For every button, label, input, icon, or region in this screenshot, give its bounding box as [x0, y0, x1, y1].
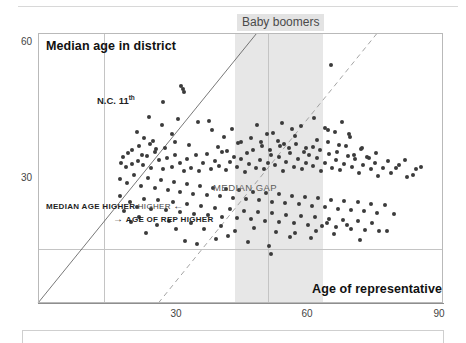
- scatter-point: [309, 236, 313, 240]
- scatter-point: [182, 169, 186, 173]
- scatter-point: [196, 120, 200, 124]
- scatter-point: [342, 162, 346, 166]
- scatter-point: [232, 155, 236, 159]
- scatter-point: [314, 229, 318, 233]
- scatter-point: [360, 146, 364, 150]
- scatter-point: [357, 171, 361, 175]
- scatter-point: [358, 238, 362, 242]
- scatter-point: [327, 217, 331, 221]
- scatter-point: [333, 130, 337, 134]
- scatter-point: [119, 161, 123, 165]
- y-tick-30: 30: [6, 172, 32, 183]
- scatter-point: [293, 134, 297, 138]
- scatter-point: [369, 167, 373, 171]
- scatter-point: [315, 156, 319, 160]
- scatter-point: [235, 216, 239, 220]
- scatter-point: [199, 204, 203, 208]
- scatter-point: [160, 123, 164, 127]
- scatter-point: [349, 208, 353, 212]
- scatter-point: [373, 161, 377, 165]
- y-tick-60: 60: [6, 36, 32, 47]
- scatter-point: [336, 207, 340, 211]
- annotation-nc-11th: N.C. 11th: [97, 94, 135, 106]
- scatter-point: [173, 140, 177, 144]
- scatter-point: [130, 162, 134, 166]
- arrow-left-icon: ←: [173, 200, 183, 211]
- scatter-point: [288, 235, 292, 239]
- scatter-point: [310, 204, 314, 208]
- scatter-point: [352, 153, 356, 157]
- scatter-point: [233, 229, 237, 233]
- scatter-point: [244, 197, 248, 201]
- scatter-point: [149, 166, 153, 170]
- scatter-point: [174, 227, 178, 231]
- scatter-point: [304, 161, 308, 165]
- scatter-point: [335, 150, 339, 154]
- scatter-point: [299, 214, 303, 218]
- scatter-point: [148, 142, 152, 146]
- scatter-point: [163, 146, 167, 150]
- scatter-point: [216, 145, 220, 149]
- scatter-point: [323, 205, 327, 209]
- scatter-point: [370, 221, 374, 225]
- scatter-point: [323, 161, 327, 165]
- scatter-point: [153, 186, 157, 190]
- scatter-point: [292, 221, 296, 225]
- x-tick-90: 90: [424, 308, 454, 319]
- scatter-point: [217, 164, 221, 168]
- scatter-point: [125, 181, 129, 185]
- scatter-point: [350, 165, 354, 169]
- scatter-point: [118, 194, 122, 198]
- scatter-point: [349, 227, 353, 231]
- scatter-point: [259, 140, 263, 144]
- scatter-point: [207, 119, 211, 123]
- scatter-point: [255, 123, 259, 127]
- scatter-point: [243, 170, 247, 174]
- scatter-point: [266, 161, 270, 165]
- scatter-point: [276, 139, 280, 143]
- scatter-point: [419, 165, 423, 169]
- scatter-point: [332, 232, 336, 236]
- scatter-point: [139, 184, 143, 188]
- scatter-point: [205, 193, 209, 197]
- scatter-point: [306, 223, 310, 227]
- scatter-point: [403, 158, 407, 162]
- scatter-point: [239, 157, 243, 161]
- scatter-point: [369, 202, 373, 206]
- scatter-point: [141, 163, 145, 167]
- scatter-point: [256, 210, 260, 214]
- scatter-point: [325, 221, 329, 225]
- scatter-point: [157, 158, 161, 162]
- scatter-point: [411, 173, 415, 177]
- scatter-point: [323, 126, 327, 130]
- scatter-point: [242, 209, 246, 213]
- scatter-point: [118, 177, 122, 181]
- scatter-point: [392, 212, 396, 216]
- scatter-point: [205, 152, 209, 156]
- scatter-point: [126, 151, 130, 155]
- scatter-point: [147, 115, 151, 119]
- scatter-point: [140, 153, 144, 157]
- scatter-point: [277, 155, 281, 159]
- x-tick-30: 30: [161, 308, 191, 319]
- scatter-point: [356, 219, 360, 223]
- scatter-point: [194, 153, 198, 157]
- page-top-rule: [18, 6, 458, 7]
- annotation-median-age-higher-strong: MEDIAN AGE HIGHER: [46, 202, 135, 211]
- scatter-point: [161, 167, 165, 171]
- scatter-point: [346, 154, 350, 158]
- annotation-age-of-rep-higher-strong: AGE OF REP HIGHER: [126, 215, 214, 224]
- y-axis-title: Median age in district: [46, 39, 176, 53]
- x-axis-baseline: [38, 303, 444, 304]
- scatter-point: [183, 239, 187, 243]
- annotation-nc-11th-main: N.C. 11: [97, 95, 129, 106]
- plot-area: [38, 33, 443, 303]
- scatter-point: [299, 124, 303, 128]
- scatter-point: [281, 169, 285, 173]
- scatter-point: [137, 144, 141, 148]
- x-axis-title: Age of representative: [312, 282, 442, 296]
- scatter-point: [270, 200, 274, 204]
- scatter-point: [311, 145, 315, 149]
- scatter-point: [231, 196, 235, 200]
- scatter-point: [326, 140, 330, 144]
